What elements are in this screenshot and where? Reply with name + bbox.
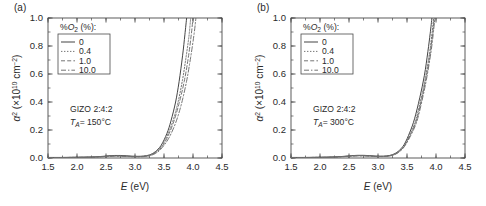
annotation-material: GIZO 2:4:2 xyxy=(70,104,113,114)
x-tick-label: 4.5 xyxy=(215,161,228,172)
legend-item-label: 10.0 xyxy=(79,65,96,75)
panel-b-plot: 1.52.02.53.03.54.04.50.00.20.40.60.81.0α… xyxy=(243,0,486,206)
x-tick-label: 4.0 xyxy=(429,161,442,172)
y-tick-label: 0.6 xyxy=(273,68,286,79)
x-tick-label: 2.5 xyxy=(99,161,112,172)
y-tick-label: 0.6 xyxy=(30,68,43,79)
panel-b: (b) 1.52.02.53.03.54.04.50.00.20.40.60.8… xyxy=(243,0,486,206)
x-tick-label: 1.5 xyxy=(284,161,297,172)
x-tick-label: 4.0 xyxy=(186,161,199,172)
x-tick-label: 3.0 xyxy=(128,161,141,172)
y-tick-label: 0.4 xyxy=(273,96,286,107)
y-tick-label: 0.8 xyxy=(273,40,286,51)
x-tick-label: 2.0 xyxy=(70,161,83,172)
x-axis-label: E (eV) xyxy=(364,181,392,192)
y-axis-label: α2 (×1010 cm−2) xyxy=(11,55,22,122)
x-axis-label: E (eV) xyxy=(121,181,149,192)
panel-a: (a) 1.52.02.53.03.54.04.50.00.20.40.60.8… xyxy=(0,0,243,206)
y-tick-label: 0.0 xyxy=(30,152,43,163)
y-tick-label: 1.0 xyxy=(273,12,286,23)
x-tick-label: 4.5 xyxy=(458,161,471,172)
y-tick-label: 0.2 xyxy=(30,124,43,135)
annotation-temperature: TA= 300°C xyxy=(313,117,354,128)
panel-a-svg: 1.52.02.53.03.54.04.50.00.20.40.60.81.0α… xyxy=(0,0,243,206)
annotation-temperature: TA= 150°C xyxy=(70,117,111,128)
y-axis-label: α2 (×1010 cm−2) xyxy=(254,55,265,122)
legend-title: %O2 (%): xyxy=(60,22,96,33)
y-axis-label-text: α2 (×1010 cm−2) xyxy=(11,55,22,122)
x-tick-label: 3.0 xyxy=(371,161,384,172)
panel-a-plot: 1.52.02.53.03.54.04.50.00.20.40.60.81.0α… xyxy=(0,0,243,206)
legend-title: %O2 (%): xyxy=(303,22,339,33)
y-tick-label: 1.0 xyxy=(30,12,43,23)
y-tick-label: 0.8 xyxy=(30,40,43,51)
x-tick-label: 3.5 xyxy=(400,161,413,172)
y-tick-label: 0.2 xyxy=(273,124,286,135)
x-tick-label: 2.5 xyxy=(342,161,355,172)
x-tick-label: 1.5 xyxy=(41,161,54,172)
y-tick-label: 0.0 xyxy=(273,152,286,163)
y-axis-label-text: α2 (×1010 cm−2) xyxy=(254,55,265,122)
x-tick-label: 3.5 xyxy=(157,161,170,172)
y-tick-label: 0.4 xyxy=(30,96,43,107)
legend-item-label: 10.0 xyxy=(322,65,339,75)
annotation-material: GIZO 2:4:2 xyxy=(313,104,356,114)
panel-b-svg: 1.52.02.53.03.54.04.50.00.20.40.60.81.0α… xyxy=(243,0,486,206)
x-tick-label: 2.0 xyxy=(313,161,326,172)
figure-root: (a) 1.52.02.53.03.54.04.50.00.20.40.60.8… xyxy=(0,0,486,206)
